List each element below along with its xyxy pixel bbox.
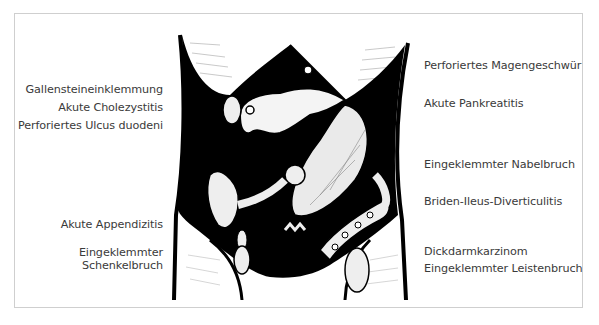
label-acute-pancreatitis: Akute Pankreatitis (424, 97, 523, 111)
label-perforated-gastric-ulcer: Perforiertes Magengeschwür (424, 59, 581, 73)
label-femoral-hernia: Schenkelbruch (82, 259, 163, 273)
label-acute-appendicitis: Akute Appendizitis (61, 218, 163, 232)
inguinal-hernia (345, 248, 369, 292)
label-acute-cholecystitis: Akute Cholezystitis (58, 101, 163, 115)
label-colon-carcinoma: Dickdarmkarzinom (424, 245, 528, 259)
label-inguinal-hernia: Eingeklemmter Leistenbruch (424, 262, 583, 276)
label-bridle-ileus-diverticulitis: Briden-Ileus-Diverticulitis (424, 195, 562, 209)
abdomen-illustration (170, 15, 420, 300)
label-umbilical-hernia: Eingeklemmter Nabelbruch (424, 158, 575, 172)
umbilical-hernia (285, 165, 305, 185)
label-gallstone-impaction: Gallensteineinklemmung (26, 83, 163, 97)
gallbladder (223, 96, 241, 124)
label-incarcerated: Eingeklemmter (79, 246, 163, 260)
label-perforated-duodenal-ulcer: Perforiertes Ulcus duodeni (18, 119, 163, 133)
femoral-hernia (234, 246, 250, 274)
